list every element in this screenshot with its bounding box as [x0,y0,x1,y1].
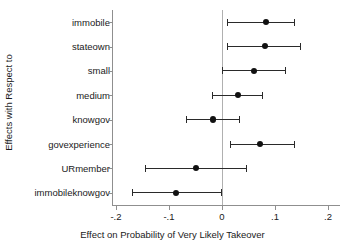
confidence-interval-cap-upper [285,67,286,74]
x-tick-mark [275,206,276,210]
estimate-marker [262,43,268,49]
x-tick-mark [169,206,170,210]
x-axis-title: Effect on Probability of Very Likely Tak… [0,228,345,241]
point-range-medium [112,90,340,101]
confidence-interval-cap-upper [239,116,240,123]
point-range-stateown [112,41,340,52]
estimate-marker [263,19,269,25]
point-range-immobile [112,17,340,28]
y-axis-tick-labels: immobilestateownsmallmediumknowgovgovexp… [18,10,110,205]
forest-plot-figure: Effects with Respect to immobilestateown… [0,0,345,252]
y-tick-label-stateown: stateown [18,41,110,52]
y-tick-label-knowgov: knowgov [18,114,110,125]
estimate-marker [251,68,257,74]
zero-reference-line [222,10,223,205]
y-tick-label-immobileknowgov: immobileknowgov [18,187,110,198]
y-tick-label-govexperience: govexperience [18,139,110,150]
confidence-interval-cap-lower [145,165,146,172]
x-tick-mark [222,206,223,210]
y-axis-line [112,10,113,205]
plot-area [112,10,340,205]
estimate-marker [257,141,263,147]
estimate-marker [193,165,199,171]
y-axis-title: Effects with Respect to [2,0,16,205]
point-range-urmember [112,163,340,174]
confidence-interval-cap-upper [294,19,295,26]
confidence-interval-cap-upper [246,165,247,172]
confidence-interval-cap-upper [300,43,301,50]
estimate-marker [210,116,216,122]
y-tick-label-urmember: URmember [18,163,110,174]
x-tick-label: -.1 [149,211,189,223]
confidence-interval-cap-lower [132,189,133,196]
x-tick-label: .1 [255,211,295,223]
confidence-interval-cap-lower [222,67,223,74]
estimate-marker [235,92,241,98]
confidence-interval-cap-lower [227,19,228,26]
confidence-interval-line [227,22,294,23]
x-tick-mark [328,206,329,210]
confidence-interval-cap-upper [294,141,295,148]
point-range-small [112,65,340,76]
x-tick-label: -.2 [96,211,136,223]
x-tick-label: 0 [202,211,242,223]
y-tick-label-immobile: immobile [18,17,110,28]
estimate-marker [173,190,179,196]
confidence-interval-cap-lower [230,141,231,148]
y-tick-label-medium: medium [18,90,110,101]
x-tick-mark [116,206,117,210]
confidence-interval-cap-lower [212,92,213,99]
x-axis-line [112,205,340,206]
confidence-interval-cap-upper [221,189,222,196]
confidence-interval-cap-upper [262,92,263,99]
x-tick-label: .2 [308,211,345,223]
confidence-interval-cap-lower [186,116,187,123]
confidence-interval-cap-lower [227,43,228,50]
point-range-govexperience [112,139,340,150]
point-range-knowgov [112,114,340,125]
point-range-immobileknowgov [112,187,340,198]
y-tick-label-small: small [18,65,110,76]
